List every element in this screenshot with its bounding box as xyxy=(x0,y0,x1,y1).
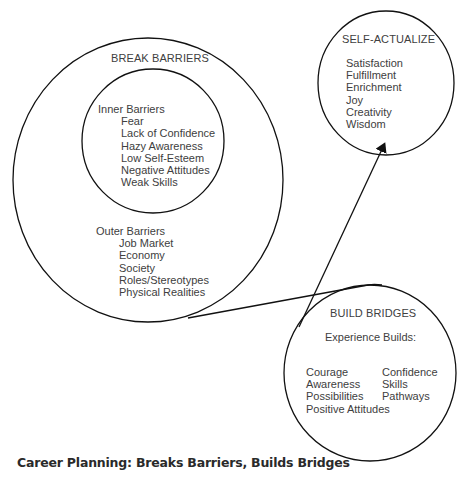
build-bridges-subtitle: Experience Builds: xyxy=(325,331,416,343)
inner-barriers-list: Inner Barriers Fear Lack of Confidence H… xyxy=(98,103,215,188)
inner-barriers-heading: Inner Barriers xyxy=(98,103,215,115)
inner-barrier-item: Hazy Awareness xyxy=(98,140,215,152)
build-bridges-col-2: Confidence Skills Pathways xyxy=(382,366,458,415)
self-actualize-item: Creativity xyxy=(346,106,403,118)
outer-barriers-list: Outer Barriers Job Market Economy Societ… xyxy=(96,225,209,298)
outer-barrier-item: Job Market xyxy=(96,237,209,249)
outer-barrier-item: Physical Realities xyxy=(96,286,209,298)
outer-barrier-item: Economy xyxy=(96,249,209,261)
self-actualize-item: Joy xyxy=(346,94,403,106)
build-item: Possibilities xyxy=(306,390,382,402)
bridges-to-self-actualize-arrow xyxy=(299,145,384,327)
break-barriers-title: BREAK BARRIERS xyxy=(111,52,209,64)
inner-barrier-item: Fear xyxy=(98,115,215,127)
self-actualize-item: Enrichment xyxy=(346,81,403,93)
build-item: Positive Attitudes xyxy=(306,403,382,415)
build-item: Confidence xyxy=(382,366,458,378)
self-actualize-item: Satisfaction xyxy=(346,57,403,69)
build-item: Pathways xyxy=(382,390,458,402)
build-item: Courage xyxy=(306,366,382,378)
build-bridges-title: BUILD BRIDGES xyxy=(330,307,416,319)
outer-barrier-item: Society xyxy=(96,262,209,274)
build-item: Skills xyxy=(382,378,458,390)
self-actualize-title: SELF-ACTUALIZE xyxy=(342,33,435,45)
inner-barrier-item: Negative Attitudes xyxy=(98,164,215,176)
build-bridges-col-1: Courage Awareness Possibilities Positive… xyxy=(306,366,382,415)
outer-barrier-item: Roles/Stereotypes xyxy=(96,274,209,286)
outer-barriers-heading: Outer Barriers xyxy=(96,225,209,237)
self-actualize-list: Satisfaction Fulfillment Enrichment Joy … xyxy=(346,57,403,130)
inner-barrier-item: Weak Skills xyxy=(98,176,215,188)
self-actualize-item: Fulfillment xyxy=(346,69,403,81)
build-bridges-columns: Courage Awareness Possibilities Positive… xyxy=(306,366,458,415)
figure-caption: Career Planning: Breaks Barriers, Builds… xyxy=(17,455,350,470)
build-item: Awareness xyxy=(306,378,382,390)
inner-barrier-item: Lack of Confidence xyxy=(98,127,215,139)
inner-barrier-item: Low Self-Esteem xyxy=(98,152,215,164)
self-actualize-item: Wisdom xyxy=(346,118,403,130)
